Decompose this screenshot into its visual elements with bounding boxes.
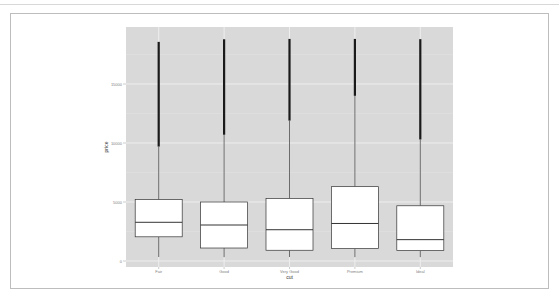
x-tick-label: Fair: [155, 269, 163, 274]
box-iqr: [397, 206, 444, 251]
y-tick-label: 5000: [113, 200, 123, 205]
y-tick-label: 15000: [111, 82, 123, 87]
x-tick-label: Good: [219, 269, 229, 274]
x-axis-ticks: FairGoodVery GoodPremiumIdeal: [155, 267, 424, 274]
x-tick-label: Premium: [347, 269, 364, 274]
box-iqr: [266, 198, 313, 250]
y-tick-label: 10000: [111, 141, 123, 146]
boxplot-chart: 050001000015000 FairGoodVery GoodPremium…: [0, 0, 559, 298]
x-axis-title: cut: [286, 274, 293, 280]
y-tick-label: 0: [120, 259, 123, 264]
y-axis-title: price: [103, 141, 109, 152]
box-iqr: [331, 187, 378, 249]
x-tick-label: Ideal: [416, 269, 425, 274]
box-iqr: [135, 200, 182, 237]
y-axis-ticks: 050001000015000: [111, 82, 126, 264]
